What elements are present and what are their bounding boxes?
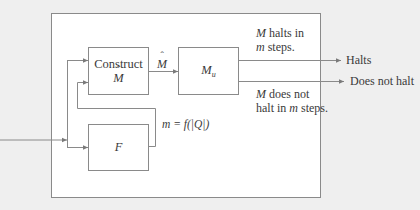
universal-machine-box: Mu <box>178 47 239 95</box>
does-not-halt-condition-label: M does not halt in m steps. <box>256 87 328 116</box>
halts-output-label: Halts <box>346 53 371 67</box>
f-label: F <box>115 140 123 154</box>
does-not-halt-output-label: Does not halt <box>350 74 414 88</box>
halts-condition-label: M halts in m steps. <box>256 26 304 55</box>
connector-wires <box>0 0 420 210</box>
construct-m-hat-label: M <box>113 71 123 85</box>
m-hat-edge-label: M <box>157 57 167 71</box>
construct-box: Construct M <box>88 47 149 95</box>
f-box: F <box>88 124 149 171</box>
mu-label: Mu <box>201 63 215 79</box>
m-formula-label: m = f(|Q|) <box>162 118 209 132</box>
